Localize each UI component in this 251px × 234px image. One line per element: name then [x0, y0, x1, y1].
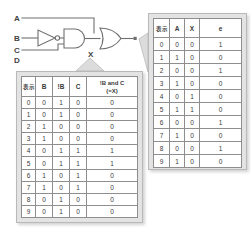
left-header-x: !B and C (=X) — [87, 77, 138, 97]
right-table-head: 表示 A X e — [154, 19, 242, 38]
cell-x: 0 — [185, 129, 200, 142]
cell-b: 0 — [36, 157, 53, 169]
wire-c — [22, 44, 64, 50]
right-truth-table-panel: 表示 A X e 0001 1100 2001 3100 4010 5110 6… — [148, 13, 247, 170]
left-header-x-line2: (=X) — [106, 88, 118, 94]
table-row: 50111 — [22, 157, 138, 169]
cell-e: 0 — [200, 155, 242, 168]
table-header-row: 表示 A X e — [154, 19, 242, 38]
cell-c: 1 — [70, 157, 87, 169]
cell-index: 8 — [22, 193, 36, 205]
cell-c: 0 — [70, 109, 87, 121]
left-header-index-label: 表示 — [23, 84, 35, 90]
cell-a: 0 — [170, 38, 185, 51]
cell-index: 1 — [154, 51, 170, 64]
cell-x: 0 — [185, 64, 200, 77]
table-row: 71010 — [22, 181, 138, 193]
left-truth-table-panel: 表示 B !B C !B and C (=X) 00100 10100 2100… — [16, 71, 143, 223]
and-gate — [64, 29, 84, 48]
not-bubble — [55, 36, 59, 40]
cell-index: 6 — [22, 169, 36, 181]
cell-b: 0 — [36, 109, 53, 121]
cell-index: 5 — [154, 103, 170, 116]
cell-a: 0 — [170, 64, 185, 77]
cell-a: 1 — [170, 129, 185, 142]
cell-x: 0 — [87, 133, 138, 145]
table-row: 90100 — [22, 205, 138, 217]
table-row: 21000 — [22, 121, 138, 133]
cell-a: 0 — [170, 116, 185, 129]
cell-b: 0 — [36, 145, 53, 157]
cell-x: 0 — [185, 116, 200, 129]
cell-index: 9 — [154, 155, 170, 168]
cell-index: 5 — [22, 157, 36, 169]
table-row: 31000 — [22, 133, 138, 145]
cell-c: 0 — [70, 193, 87, 205]
cell-x: 1 — [185, 90, 200, 103]
right-header-index-label: 表示 — [156, 26, 168, 32]
cell-index: 4 — [154, 90, 170, 103]
cell-index: 9 — [22, 205, 36, 217]
table-row: 7100 — [154, 129, 242, 142]
cell-e: 0 — [200, 129, 242, 142]
cell-c: 0 — [70, 205, 87, 217]
cell-e: 0 — [200, 77, 242, 90]
cell-index: 7 — [154, 129, 170, 142]
cell-x: 0 — [185, 142, 200, 155]
cell-b: 1 — [36, 169, 53, 181]
cell-e: 1 — [200, 142, 242, 155]
cell-index: 2 — [154, 64, 170, 77]
cell-x: 1 — [87, 145, 138, 157]
table-row: 1100 — [154, 51, 242, 64]
cell-c: 1 — [70, 181, 87, 193]
table-row: 6001 — [154, 116, 242, 129]
left-truth-table: 表示 B !B C !B and C (=X) 00100 10100 2100… — [21, 76, 138, 218]
table-row: 3100 — [154, 77, 242, 90]
cell-x: 0 — [87, 193, 138, 205]
table-row: 2001 — [154, 64, 242, 77]
cell-x: 0 — [185, 77, 200, 90]
cell-c: 1 — [70, 145, 87, 157]
cell-b: 1 — [36, 133, 53, 145]
cell-nb: 1 — [53, 205, 70, 217]
cell-x: 0 — [87, 181, 138, 193]
node-label-x: X — [88, 50, 93, 59]
cell-nb: 1 — [53, 157, 70, 169]
cell-c: 1 — [70, 169, 87, 181]
input-label-b: B — [14, 35, 20, 43]
left-header-b: B — [36, 77, 53, 97]
left-table-body: 00100 10100 21000 31000 40111 50111 6101… — [22, 97, 138, 218]
cell-c: 0 — [70, 133, 87, 145]
cell-nb: 0 — [53, 181, 70, 193]
cell-x: 0 — [185, 38, 200, 51]
cell-a: 1 — [170, 77, 185, 90]
circuit-svg — [0, 0, 160, 75]
cell-a: 1 — [170, 103, 185, 116]
or-gate — [100, 28, 121, 49]
cell-index: 0 — [22, 97, 36, 109]
table-row: 80100 — [22, 193, 138, 205]
cell-b: 1 — [36, 181, 53, 193]
cell-x: 0 — [185, 51, 200, 64]
cell-index: 3 — [154, 77, 170, 90]
cell-x: 0 — [87, 121, 138, 133]
cell-a: 1 — [170, 51, 185, 64]
cell-nb: 0 — [53, 121, 70, 133]
cell-e: 0 — [200, 90, 242, 103]
cell-e: 1 — [200, 38, 242, 51]
table-row: 61010 — [22, 169, 138, 181]
table-row: 8001 — [154, 142, 242, 155]
cell-e: 1 — [200, 64, 242, 77]
left-header-nb: !B — [53, 77, 70, 97]
cell-x: 0 — [87, 109, 138, 121]
cell-e: 1 — [200, 116, 242, 129]
cell-a: 0 — [170, 90, 185, 103]
right-header-a: A — [170, 19, 185, 38]
right-header-x: X — [185, 19, 200, 38]
cell-c: 0 — [70, 97, 87, 109]
right-table-body: 0001 1100 2001 3100 4010 5110 6001 7100 … — [154, 38, 242, 168]
left-table-head: 表示 B !B C !B and C (=X) — [22, 77, 138, 97]
cell-b: 0 — [36, 97, 53, 109]
table-row: 00100 — [22, 97, 138, 109]
cell-x: 1 — [87, 157, 138, 169]
